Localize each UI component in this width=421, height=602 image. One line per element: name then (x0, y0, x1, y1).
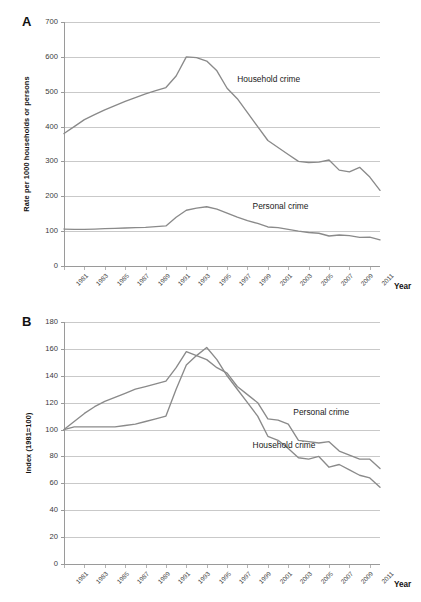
x-tick-label: 1995 (217, 570, 232, 585)
x-tick-mark (288, 565, 289, 568)
panel-a-y-axis-label: Rate per 1000 households or persons (22, 22, 31, 266)
x-tick-mark (207, 565, 208, 568)
panel-b-y-axis-label: Index (1981=100) (24, 322, 33, 564)
x-tick-mark (166, 267, 167, 270)
x-tick-mark (186, 565, 187, 568)
x-tick-label: 2011 (380, 272, 395, 287)
x-tick-label: 1997 (237, 272, 252, 287)
x-tick-label: 1993 (196, 272, 211, 287)
x-tick-label: 2003 (298, 570, 313, 585)
x-tick-mark (84, 565, 85, 568)
y-tick-label: 0 (32, 560, 58, 568)
x-tick-label: 1997 (237, 570, 252, 585)
y-tick-label: 700 (32, 18, 58, 26)
y-tick-label: 300 (32, 157, 58, 165)
y-tick-label: 40 (32, 506, 58, 514)
x-tick-mark (370, 267, 371, 270)
x-tick-mark (186, 267, 187, 270)
x-tick-label: 2001 (278, 272, 293, 287)
x-tick-label: 2001 (278, 570, 293, 585)
x-axis-line (64, 564, 380, 565)
x-tick-label: 1999 (258, 272, 273, 287)
x-tick-mark (146, 267, 147, 270)
x-tick-label: 1981 (74, 272, 89, 287)
x-tick-mark (288, 267, 289, 270)
y-tick-label: 600 (32, 53, 58, 61)
y-tick-label: 140 (32, 372, 58, 380)
panel-b-plot-area: 0204060801001201401601801981198319851987… (64, 322, 380, 564)
x-tick-label: 1989 (156, 272, 171, 287)
panel-a-plot-area: 0100200300400500600700198119831985198719… (64, 22, 380, 266)
x-tick-label: 2005 (319, 570, 334, 585)
x-tick-mark (309, 565, 310, 568)
x-tick-mark (84, 267, 85, 270)
x-tick-label: 2011 (380, 570, 395, 585)
x-tick-mark (166, 565, 167, 568)
y-tick-label: 0 (32, 262, 58, 270)
y-tick-label: 100 (32, 426, 58, 434)
x-tick-label: 1987 (135, 272, 150, 287)
series-annotation-personal-crime: Personal crime (293, 407, 349, 417)
x-tick-label: 2007 (339, 272, 354, 287)
x-tick-label: 1987 (135, 570, 150, 585)
y-tick-label: 160 (32, 345, 58, 353)
series-layer (64, 22, 380, 266)
x-tick-label: 1995 (217, 272, 232, 287)
y-tick-label: 500 (32, 88, 58, 96)
x-tick-label: 2009 (360, 570, 375, 585)
x-tick-label: 2009 (360, 272, 375, 287)
x-tick-mark (329, 565, 330, 568)
x-tick-label: 1999 (258, 570, 273, 585)
panel-a-x-axis-label: Year (394, 282, 411, 291)
x-tick-label: 1985 (115, 272, 130, 287)
x-tick-mark (268, 565, 269, 568)
y-tick-label: 200 (32, 192, 58, 200)
x-tick-label: 1991 (176, 272, 191, 287)
panel-b: B Index (1981=100) 020406080100120140160… (0, 300, 421, 602)
x-tick-mark (268, 267, 269, 270)
y-tick-label: 120 (32, 399, 58, 407)
x-tick-label: 2003 (298, 272, 313, 287)
series-annotation-personal-crime: Personal crime (253, 201, 309, 211)
x-tick-mark (125, 565, 126, 568)
x-tick-label: 1981 (74, 570, 89, 585)
x-tick-mark (105, 267, 106, 270)
x-tick-mark (207, 267, 208, 270)
x-tick-mark (349, 565, 350, 568)
y-tick-label: 400 (32, 123, 58, 131)
x-tick-label: 2005 (319, 272, 334, 287)
x-tick-label: 2007 (339, 570, 354, 585)
panel-b-x-axis-label: Year (394, 580, 411, 589)
x-tick-mark (247, 565, 248, 568)
series-annotation-household-crime: Household crime (237, 74, 300, 84)
series-line-household-crime (64, 348, 380, 488)
y-tick-label: 20 (32, 533, 58, 541)
x-tick-mark (64, 267, 65, 270)
x-axis-line (64, 266, 380, 267)
x-tick-label: 1989 (156, 570, 171, 585)
series-layer (64, 322, 380, 564)
x-tick-mark (329, 267, 330, 270)
x-tick-mark (227, 267, 228, 270)
x-tick-label: 1983 (95, 272, 110, 287)
figure-container: A Rate per 1000 households or persons 01… (0, 0, 421, 602)
series-annotation-household-crime: Household crime (253, 440, 316, 450)
x-tick-mark (247, 267, 248, 270)
series-line-personal-crime (64, 207, 380, 240)
y-tick-label: 180 (32, 318, 58, 326)
panel-a: A Rate per 1000 households or persons 01… (0, 0, 421, 306)
x-tick-label: 1991 (176, 570, 191, 585)
y-tick-label: 60 (32, 479, 58, 487)
y-tick-label: 100 (32, 227, 58, 235)
y-tick-label: 80 (32, 452, 58, 460)
x-tick-mark (105, 565, 106, 568)
x-tick-label: 1983 (95, 570, 110, 585)
x-tick-mark (146, 565, 147, 568)
x-tick-mark (64, 565, 65, 568)
x-tick-label: 1993 (196, 570, 211, 585)
series-line-household-crime (64, 57, 380, 191)
x-tick-mark (370, 565, 371, 568)
x-tick-mark (309, 267, 310, 270)
x-tick-mark (125, 267, 126, 270)
x-tick-mark (227, 565, 228, 568)
